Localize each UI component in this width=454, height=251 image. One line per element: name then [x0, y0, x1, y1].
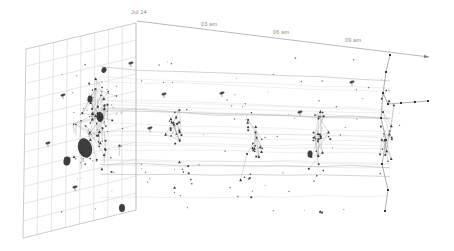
axis-tick-label: Jul 14 [131, 9, 147, 15]
axis-tick-label: 06 am [273, 29, 289, 35]
temporal-network-visualization: Jul 14 03 am 06 am 09 am [0, 0, 454, 251]
network-canvas [0, 0, 454, 251]
axis-tick-label: 09 am [345, 37, 361, 43]
axis-tick-label: 03 am [201, 21, 217, 27]
